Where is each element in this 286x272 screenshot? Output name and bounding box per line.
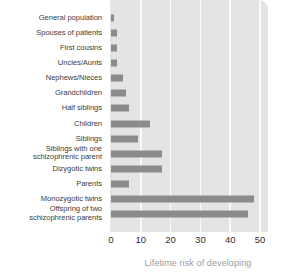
bar [111, 135, 138, 142]
category-label: Monozygotic twins [0, 195, 102, 204]
category-label: Siblings with one schizophrenic parent [0, 145, 102, 162]
category-axis: General populationSpouses of patientsFir… [0, 0, 106, 232]
gridline [259, 0, 261, 232]
bar-chart: General populationSpouses of patientsFir… [0, 0, 286, 272]
category-label: Siblings [0, 134, 102, 143]
category-label: Offspring of two schizophrenic parents [0, 206, 102, 223]
category-label: First cousins [0, 44, 102, 53]
bar [111, 90, 126, 97]
bar [111, 211, 248, 218]
bar [111, 166, 162, 173]
category-label: Dizygotic twins [0, 165, 102, 174]
bar [111, 14, 114, 21]
x-axis-title: Lifetime risk of developing [110, 258, 286, 270]
category-label: Children [0, 119, 102, 128]
category-label: Grandchildren [0, 89, 102, 98]
bar [111, 196, 254, 203]
plot-area [110, 0, 268, 232]
x-tick-label: 0 [108, 234, 113, 246]
category-label: Half siblings [0, 104, 102, 113]
x-tick-label: 50 [255, 234, 266, 246]
category-label: Nephews/Nieces [0, 74, 102, 83]
bar [111, 120, 150, 127]
category-label: Parents [0, 180, 102, 189]
category-label: Spouses of patients [0, 28, 102, 37]
bar [111, 150, 162, 157]
bar [111, 29, 117, 36]
bar [111, 60, 117, 67]
bar [111, 105, 129, 112]
bar [111, 75, 123, 82]
x-tick-label: 30 [195, 234, 206, 246]
category-label: General population [0, 13, 102, 22]
x-tick-label: 40 [225, 234, 236, 246]
x-tick-label: 20 [165, 234, 176, 246]
bar [111, 181, 129, 188]
x-tick-label: 10 [136, 234, 147, 246]
bar [111, 44, 117, 51]
value-axis: 01020304050 [0, 234, 286, 250]
category-label: Uncles/Aunts [0, 59, 102, 68]
